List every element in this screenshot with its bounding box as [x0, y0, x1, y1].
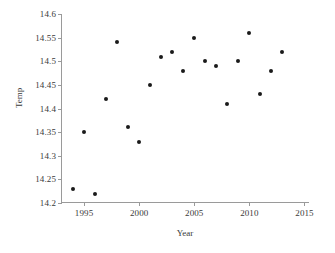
data-point	[181, 69, 185, 73]
data-point	[280, 50, 284, 54]
data-point	[115, 40, 119, 44]
data-point	[236, 59, 240, 63]
y-tick-mark	[58, 132, 62, 133]
x-tick-label: 2005	[185, 208, 203, 218]
data-point	[170, 50, 174, 54]
y-axis-title: Temp	[14, 88, 24, 108]
y-tick-mark	[58, 203, 62, 204]
data-point	[159, 55, 163, 59]
x-tick-mark	[84, 202, 85, 206]
y-tick-mark	[58, 85, 62, 86]
data-point	[82, 130, 86, 134]
x-tick-label: 1995	[75, 208, 93, 218]
data-point	[137, 140, 141, 144]
data-point	[203, 59, 207, 63]
y-tick-label: 14.55	[35, 33, 56, 43]
y-tick-label: 14.6	[40, 9, 56, 19]
x-tick-mark	[194, 202, 195, 206]
x-tick-mark	[249, 202, 250, 206]
scatter-plot-figure: 14.214.2514.314.3514.414.4514.514.5514.6…	[0, 0, 335, 253]
data-point	[93, 192, 97, 196]
y-tick-label: 14.4	[40, 104, 56, 114]
x-tick-label: 2000	[130, 208, 148, 218]
y-tick-label: 14.3	[40, 151, 56, 161]
x-tick-label: 2010	[240, 208, 258, 218]
data-point	[269, 69, 273, 73]
data-point	[247, 31, 251, 35]
data-point	[258, 92, 262, 96]
data-point	[192, 36, 196, 40]
y-tick-mark	[58, 38, 62, 39]
y-tick-label: 14.2	[40, 198, 56, 208]
x-tick-mark	[304, 202, 305, 206]
y-tick-mark	[58, 179, 62, 180]
data-point	[126, 125, 130, 129]
y-tick-mark	[58, 61, 62, 62]
x-tick-mark	[139, 202, 140, 206]
y-tick-label: 14.5	[40, 56, 56, 66]
y-tick-label: 14.45	[35, 80, 56, 90]
y-tick-label: 14.25	[35, 174, 56, 184]
x-tick-label: 2015	[295, 208, 313, 218]
x-axis-title: Year	[61, 228, 309, 238]
y-tick-label: 14.35	[35, 127, 56, 137]
data-point	[71, 187, 75, 191]
y-tick-mark	[58, 109, 62, 110]
y-tick-mark	[58, 14, 62, 15]
data-point	[214, 64, 218, 68]
data-point	[104, 97, 108, 101]
plot-area: 14.214.2514.314.3514.414.4514.514.5514.6…	[61, 14, 309, 203]
y-tick-mark	[58, 156, 62, 157]
data-point	[148, 83, 152, 87]
data-point	[225, 102, 229, 106]
